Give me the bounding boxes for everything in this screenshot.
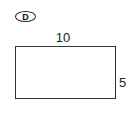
rectangle-width-label: 10 [52, 30, 74, 45]
figure-label-badge: D [15, 11, 36, 22]
rectangle-shape [15, 46, 116, 99]
rectangle-height-label: 5 [119, 75, 126, 90]
figure-label: D [22, 12, 29, 22]
